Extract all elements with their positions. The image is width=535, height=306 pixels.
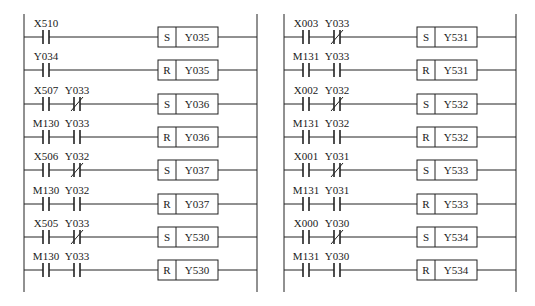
coil-target: Y530: [185, 231, 210, 243]
coil-target: Y533: [444, 198, 469, 210]
reset-coil: RY531: [417, 60, 477, 80]
contact-label: M130: [33, 117, 60, 129]
coil-op: R: [163, 64, 171, 76]
coil-op: R: [422, 198, 430, 210]
coil-target: Y532: [444, 98, 468, 110]
contact-label: M130: [33, 250, 60, 262]
contact-label: M131: [293, 184, 319, 196]
no-contact: Y032: [65, 184, 89, 211]
no-contact: Y034: [34, 50, 59, 77]
contact-label: Y034: [34, 50, 59, 62]
no-contact: Y031: [325, 184, 349, 211]
contact-label: X002: [294, 84, 318, 96]
no-contact: M131: [293, 50, 319, 77]
coil-target: Y533: [444, 164, 469, 176]
contact-label: Y033: [65, 250, 90, 262]
contact-label: M131: [293, 50, 319, 62]
ladder-diagram: X510SY035Y034RY035X507Y033SY036M130Y033R…: [0, 0, 535, 306]
contact-label: Y033: [65, 84, 90, 96]
no-contact: Y033: [65, 250, 90, 277]
reset-coil: RY037: [158, 194, 218, 214]
no-contact: X505: [34, 217, 59, 244]
no-contact: M131: [293, 117, 319, 144]
no-contact: X000: [294, 217, 319, 244]
contact-label: X506: [34, 150, 59, 162]
set-coil: SY531: [417, 27, 477, 47]
coil-target: Y035: [185, 31, 210, 43]
contact-label: Y030: [325, 217, 350, 229]
no-contact: Y033: [325, 50, 350, 77]
rung: M130Y032RY037: [24, 184, 257, 214]
coil-op: S: [164, 231, 170, 243]
coil-op: S: [164, 31, 170, 43]
coil-op: S: [423, 231, 429, 243]
set-coil: SY532: [417, 94, 477, 114]
set-coil: SY530: [158, 227, 218, 247]
rung: X506Y032SY037: [24, 150, 257, 180]
no-contact: X510: [34, 17, 59, 44]
coil-op: R: [422, 131, 430, 143]
contact-label: Y032: [325, 117, 349, 129]
nc-contact: Y033: [65, 84, 90, 111]
ladder-left: X510SY035Y034RY035X507Y033SY036M130Y033R…: [24, 14, 257, 292]
rung: X000Y030SY534: [284, 217, 516, 247]
no-contact: Y030: [325, 250, 350, 277]
coil-target: Y036: [185, 131, 210, 143]
coil-target: Y531: [444, 31, 468, 43]
rung: X002Y032SY532: [284, 84, 516, 114]
coil-target: Y037: [185, 164, 210, 176]
contact-label: Y033: [65, 217, 90, 229]
nc-contact: Y030: [325, 217, 350, 244]
contact-label: X001: [294, 150, 318, 162]
no-contact: Y032: [325, 117, 349, 144]
coil-op: S: [423, 164, 429, 176]
coil-op: R: [422, 64, 430, 76]
rung: X507Y033SY036: [24, 84, 257, 114]
coil-target: Y532: [444, 131, 468, 143]
no-contact: X003: [294, 17, 319, 44]
set-coil: SY533: [417, 160, 477, 180]
nc-contact: Y031: [325, 150, 349, 177]
reset-coil: RY532: [417, 127, 477, 147]
contact-label: Y032: [65, 184, 89, 196]
coil-target: Y035: [185, 64, 210, 76]
contact-label: M131: [293, 250, 319, 262]
nc-contact: Y033: [325, 17, 350, 44]
contact-label: M130: [33, 184, 60, 196]
contact-label: M131: [293, 117, 319, 129]
no-contact: M131: [293, 250, 319, 277]
nc-contact: Y032: [325, 84, 349, 111]
contact-label: X507: [34, 84, 59, 96]
contact-label: Y033: [325, 50, 350, 62]
coil-op: S: [164, 98, 170, 110]
reset-coil: RY036: [158, 127, 218, 147]
rung: Y034RY035: [24, 50, 257, 80]
coil-op: S: [423, 31, 429, 43]
no-contact: X001: [294, 150, 318, 177]
no-contact: Y033: [65, 117, 90, 144]
set-coil: SY534: [417, 227, 477, 247]
coil-target: Y036: [185, 98, 210, 110]
coil-op: R: [422, 264, 430, 276]
coil-target: Y534: [444, 264, 469, 276]
no-contact: X507: [34, 84, 59, 111]
coil-target: Y534: [444, 231, 469, 243]
no-contact: M130: [33, 250, 60, 277]
nc-contact: Y032: [65, 150, 89, 177]
contact-label: Y033: [325, 17, 350, 29]
rung: M131Y033RY531: [284, 50, 516, 80]
rung: X003Y033SY531: [284, 17, 516, 47]
rung: M130Y033RY530: [24, 250, 257, 280]
rung: X510SY035: [24, 17, 257, 47]
no-contact: X002: [294, 84, 318, 111]
rung: M131Y032RY532: [284, 117, 516, 147]
reset-coil: RY534: [417, 260, 477, 280]
contact-label: X510: [34, 17, 59, 29]
no-contact: M131: [293, 184, 319, 211]
rung: M131Y031RY533: [284, 184, 516, 214]
coil-op: S: [164, 164, 170, 176]
reset-coil: RY035: [158, 60, 218, 80]
rung: X001Y031SY533: [284, 150, 516, 180]
coil-op: R: [163, 131, 171, 143]
contact-label: Y032: [325, 84, 349, 96]
